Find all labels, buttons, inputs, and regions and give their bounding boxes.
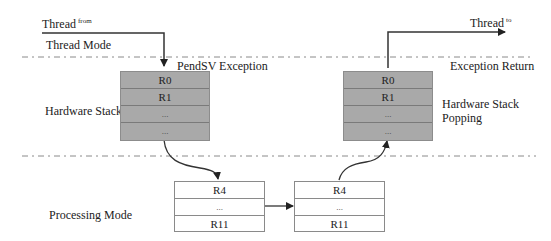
stack-cell: R4: [175, 182, 264, 199]
stack-cell: R1: [121, 89, 209, 106]
hardware-stack-label: Hardware Stack: [45, 104, 122, 118]
stack-cell: R11: [175, 216, 264, 233]
stack-cell: R0: [121, 72, 209, 89]
hardware-stack-pop: R0 R1 ... ...: [343, 71, 433, 141]
hardware-stack-push: R0 R1 ... ...: [120, 71, 210, 141]
stack-cell: R11: [295, 216, 384, 233]
processing-mode-label: Processing Mode: [49, 208, 132, 222]
stack-cell: ...: [121, 123, 209, 140]
restore-to-pop-arrow: [339, 141, 387, 180]
stack-cell: ...: [175, 199, 264, 216]
stack-cell: ...: [295, 199, 384, 216]
thread-to-label: Threadto: [470, 13, 511, 30]
stack-cell: R0: [344, 72, 432, 89]
stack-cell: ...: [344, 106, 432, 123]
stack-cell: ...: [121, 106, 209, 123]
thread-mode-label: Thread Mode: [46, 38, 111, 52]
push-to-save-arrow: [164, 140, 218, 179]
stack-cell: R1: [344, 89, 432, 106]
software-stack-save: R4 ... R11: [174, 181, 265, 232]
stack-cell: R4: [295, 182, 384, 199]
software-stack-restore: R4 ... R11: [294, 181, 385, 232]
stack-cell: ...: [344, 123, 432, 140]
hardware-stack-popping-label: Hardware Stack Popping: [442, 97, 519, 125]
thread-from-label: Threadfrom: [42, 14, 92, 31]
exception-return-label: Exception Return: [450, 59, 534, 73]
